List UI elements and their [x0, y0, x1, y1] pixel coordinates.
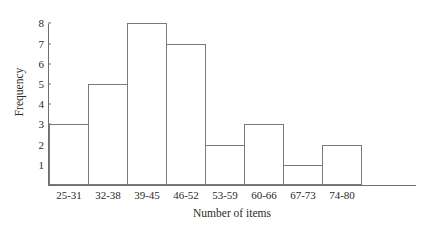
y-axis-title: Frequency — [13, 47, 25, 137]
bar-74-80 — [322, 145, 362, 185]
bar-46-52 — [166, 44, 206, 185]
y-tick-mark-7 — [48, 43, 51, 44]
y-tick-label-2: 2 — [39, 139, 45, 150]
y-axis-tick-labels: 1 2 3 4 5 6 7 8 — [28, 24, 44, 185]
x-tick-label-1: 32-38 — [88, 189, 128, 202]
x-tick-label-3: 46-52 — [166, 189, 206, 202]
bar-60-66 — [244, 124, 284, 185]
bar-39-45 — [127, 23, 167, 185]
x-axis-title: Number of items — [48, 207, 416, 219]
y-tick-label-1: 1 — [39, 159, 45, 170]
x-tick-label-4: 53-59 — [205, 189, 245, 202]
y-tick-label-3: 3 — [39, 119, 45, 130]
y-tick-label-5: 5 — [39, 79, 45, 90]
x-tick-label-2: 39-45 — [127, 189, 167, 202]
y-tick-label-8: 8 — [39, 18, 45, 29]
x-tick-label-6: 67-73 — [283, 189, 323, 202]
bar-25-31 — [49, 124, 89, 185]
y-tick-label-7: 7 — [39, 38, 45, 49]
bar-53-59 — [205, 145, 245, 185]
x-axis-tick-labels: 25-31 32-38 39-45 46-52 53-59 60-66 67-7… — [49, 189, 362, 202]
y-tick-label-4: 4 — [39, 99, 45, 110]
histogram-figure: 1 2 3 4 5 6 7 8 25-31 32-38 39-45 46-52 … — [0, 0, 444, 232]
y-tick-mark-8 — [48, 23, 51, 24]
bar-32-38 — [88, 84, 128, 185]
bar-67-73 — [283, 165, 323, 185]
x-tick-label-7: 74-80 — [322, 189, 362, 202]
x-tick-label-0: 25-31 — [49, 189, 89, 202]
x-tick-label-5: 60-66 — [244, 189, 284, 202]
histogram-bars — [49, 47, 362, 185]
x-axis-line — [48, 185, 416, 186]
y-tick-label-6: 6 — [39, 58, 45, 69]
